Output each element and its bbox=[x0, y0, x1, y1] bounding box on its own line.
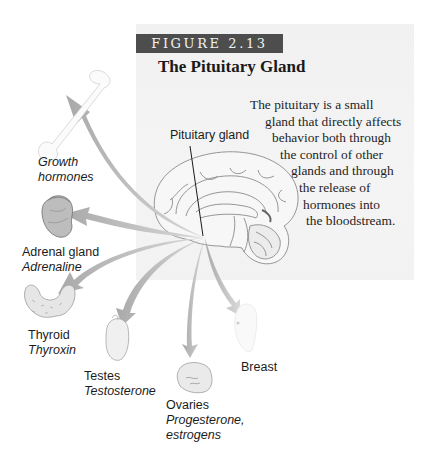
organ-name: Breast bbox=[241, 360, 277, 375]
breast-icon bbox=[235, 304, 257, 352]
adrenal-gland-icon bbox=[42, 196, 73, 238]
hormone-name: Progesterone, bbox=[166, 413, 245, 428]
brain-icon bbox=[154, 152, 298, 264]
diagram-artwork bbox=[0, 0, 437, 459]
hormone-name: estrogens bbox=[166, 428, 245, 443]
arrow-to-breast bbox=[205, 238, 240, 316]
organ-name: Adrenal gland bbox=[22, 245, 99, 260]
hormone-name: Growth bbox=[38, 155, 94, 170]
label-adrenal: Adrenal gland Adrenaline bbox=[22, 245, 99, 275]
arrow-to-ovaries bbox=[182, 238, 205, 358]
label-growth: Growth hormones bbox=[38, 155, 94, 185]
hormone-name: Thyroxin bbox=[28, 343, 76, 358]
organ-name: Ovaries bbox=[166, 398, 245, 413]
label-ovaries: Ovaries Progesterone, estrogens bbox=[166, 398, 245, 443]
pituitary-gland-label: Pituitary gland bbox=[170, 128, 249, 143]
label-testes: Testes Testosterone bbox=[84, 369, 156, 399]
thyroid-icon bbox=[24, 285, 75, 317]
hormone-name: Adrenaline bbox=[22, 260, 99, 275]
hormone-name: hormones bbox=[38, 170, 94, 185]
label-thyroid: Thyroid Thyroxin bbox=[28, 328, 76, 358]
organ-name: Testes bbox=[84, 369, 156, 384]
hormone-name: Testosterone bbox=[84, 384, 156, 399]
ovaries-icon bbox=[177, 363, 212, 393]
label-breast: Breast bbox=[241, 360, 277, 375]
organ-name: Thyroid bbox=[28, 328, 76, 343]
testes-icon bbox=[106, 315, 129, 360]
